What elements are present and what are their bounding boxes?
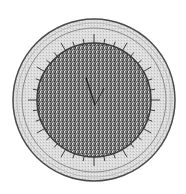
dial-illustration [0,0,186,194]
stippled-disk [37,43,151,157]
